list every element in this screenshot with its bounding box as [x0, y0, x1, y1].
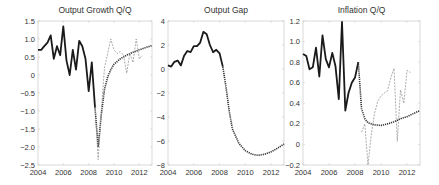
y-tick-label: 1.5	[25, 17, 35, 26]
y-tick-label: −6	[156, 137, 165, 146]
x-tick-label: 2010	[373, 168, 390, 177]
y-tick-label: −2.0	[20, 143, 35, 152]
chart-title: Output Gap	[204, 5, 248, 15]
x-tick-label: 2004	[295, 168, 312, 177]
figure: Output Growth Q/Q1.51.00.50−0.5−1.0−1.5−…	[0, 0, 439, 185]
y-tick-label: −4	[156, 113, 165, 122]
plot-frame	[38, 21, 152, 165]
x-tick-label: 2004	[160, 168, 177, 177]
series-line-model-forecast	[95, 46, 152, 148]
x-tick-label: 2008	[211, 168, 228, 177]
x-tick-label: 2008	[347, 168, 364, 177]
x-tick-label: 2012	[399, 168, 416, 177]
x-tick-label: 2012	[263, 168, 280, 177]
y-tick-label: 0	[161, 65, 165, 74]
chart-title: Inflation Q/Q	[338, 5, 386, 15]
y-tick-label: −1.5	[20, 125, 35, 134]
y-tick-label: 0.5	[25, 53, 35, 62]
series-line-actual	[38, 26, 95, 107]
x-tick-label: 2006	[185, 168, 202, 177]
plot-frame	[303, 21, 420, 165]
series-line-actual	[168, 32, 223, 67]
y-tick-label: 1.0	[290, 37, 300, 46]
y-tick-label: 0.8	[290, 58, 300, 67]
x-tick-label: 2008	[80, 168, 97, 177]
chart-canvas: Output Growth Q/Q1.51.00.50−0.5−1.0−1.5−…	[0, 0, 439, 185]
chart-title: Output Growth Q/Q	[58, 5, 132, 15]
series-line-realized	[362, 68, 411, 165]
panel-output-gap: Output Gap420−2−4−6−82004200620082010201…	[156, 5, 284, 177]
y-tick-label: 0	[296, 140, 300, 149]
x-tick-label: 2006	[321, 168, 338, 177]
series-line-realized	[95, 39, 143, 160]
x-tick-label: 2006	[55, 168, 72, 177]
y-tick-label: 0.6	[290, 78, 300, 87]
x-tick-label: 2012	[131, 168, 148, 177]
y-tick-label: 0	[31, 71, 35, 80]
x-tick-label: 2010	[237, 168, 254, 177]
y-tick-label: 2	[161, 41, 165, 50]
y-tick-label: 1.2	[290, 17, 300, 26]
y-tick-label: 0.4	[290, 99, 300, 108]
panel-output-growth: Output Growth Q/Q1.51.00.50−0.5−1.0−1.5−…	[20, 5, 152, 177]
y-tick-label: −2	[156, 89, 165, 98]
y-tick-label: −1.0	[20, 107, 35, 116]
y-tick-label: 4	[161, 17, 165, 26]
y-tick-label: −0.5	[20, 89, 35, 98]
series-line-model-forecast	[223, 67, 284, 156]
plot-frame	[168, 21, 284, 165]
y-tick-label: 1.0	[25, 35, 35, 44]
x-tick-label: 2004	[30, 168, 47, 177]
y-tick-label: 0.2	[290, 119, 300, 128]
series-line-model-forecast	[358, 62, 420, 125]
x-tick-label: 2010	[106, 168, 123, 177]
panel-inflation: Inflation Q/Q1.21.00.80.60.40.20−0.22004…	[285, 5, 420, 177]
series-line-actual	[303, 22, 358, 111]
